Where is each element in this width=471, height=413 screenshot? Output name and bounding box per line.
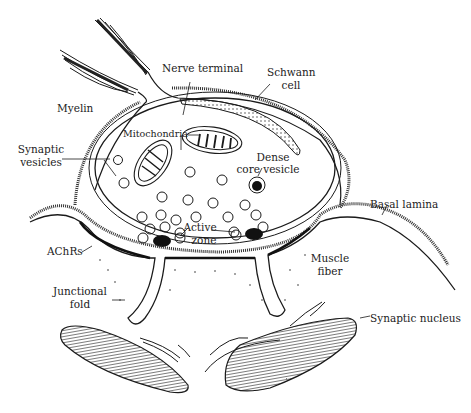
dense-core-vesicle [249, 177, 265, 193]
label-synaptic-vesicles-line1: Synaptic [16, 143, 66, 155]
label-basal-lamina: Basal lamina [370, 198, 438, 210]
label-schwann-cell-line2: cell [267, 79, 315, 91]
label-achrs: AChRs [47, 245, 83, 257]
label-schwann-cell-line1: Schwann [267, 66, 315, 78]
label-synaptic-vesicles-line2: vesicles [16, 156, 66, 168]
label-myelin: Myelin [57, 102, 93, 114]
label-dense-core-vesicle-line2: core vesicle [233, 163, 303, 175]
leader-lines [62, 82, 387, 318]
label-muscle-fiber-line2: fiber [310, 265, 350, 277]
myelin-sheath [60, 18, 150, 95]
label-muscle-fiber-line1: Muscle [310, 252, 350, 264]
label-active-zone-line2: zone [184, 234, 224, 246]
mitochondrion-2 [180, 123, 243, 157]
mitochondrion-1 [127, 134, 180, 193]
label-nerve-terminal: Nerve terminal [162, 62, 243, 74]
muscle-nucleus-left [61, 326, 189, 393]
muscle-stipple [99, 254, 306, 301]
label-synaptic-nucleus: Synaptic nucleus [370, 312, 461, 324]
label-junctional-fold-line2: fold [52, 298, 108, 310]
active-zone-dense-2 [245, 228, 263, 240]
label-dense-core-vesicle-line1: Dense [243, 151, 303, 163]
label-active-zone-line1: Active [180, 221, 220, 233]
neuromuscular-junction-diagram: Nerve terminal Schwann cell Myelin Synap… [0, 0, 471, 413]
label-junctional-fold-line1: Junctional [52, 285, 108, 297]
label-mitochondria: Mitochondria [123, 128, 188, 140]
synaptic-nucleus [225, 318, 356, 391]
